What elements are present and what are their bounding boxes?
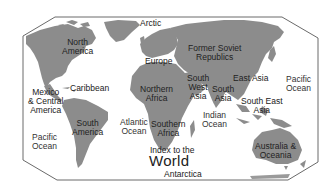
label-indian-ocean: IndianOcean xyxy=(202,111,227,129)
label-caribbean[interactable]: Caribbean xyxy=(70,84,109,93)
label-south-asia[interactable]: SouthAsia xyxy=(212,85,234,103)
label-south-west-asia[interactable]: SouthWestAsia xyxy=(187,74,209,101)
label-former-soviet-republics[interactable]: Former SovietRepublics xyxy=(188,44,241,62)
label-europe[interactable]: Europe xyxy=(145,57,172,66)
label-south-east-asia[interactable]: South EastAsia xyxy=(241,97,283,115)
label-mexico-central-america[interactable]: Mexico& CentralAmerica xyxy=(28,88,63,115)
label-east-asia[interactable]: East Asia xyxy=(233,74,268,83)
label-southern-africa[interactable]: SouthernAfrica xyxy=(151,120,186,138)
label-antarctica[interactable]: Antarctica xyxy=(164,170,202,179)
label-northern-africa[interactable]: NorthernAfrica xyxy=(140,85,173,103)
world-index-map: NorthAmerica Mexico& CentralAmerica Cari… xyxy=(0,0,334,192)
label-arctic[interactable]: Arctic xyxy=(140,19,161,28)
label-australia-oceania[interactable]: Australia &Oceania xyxy=(255,142,296,160)
label-north-america[interactable]: NorthAmerica xyxy=(62,38,93,56)
map-title: World xyxy=(149,152,189,169)
label-atlantic-ocean: AtlanticOcean xyxy=(120,118,148,136)
label-pacific-ocean-west: PacificOcean xyxy=(32,133,57,151)
label-south-america[interactable]: SouthAmerica xyxy=(72,119,103,137)
label-pacific-ocean-east: PacificOcean xyxy=(286,75,311,93)
